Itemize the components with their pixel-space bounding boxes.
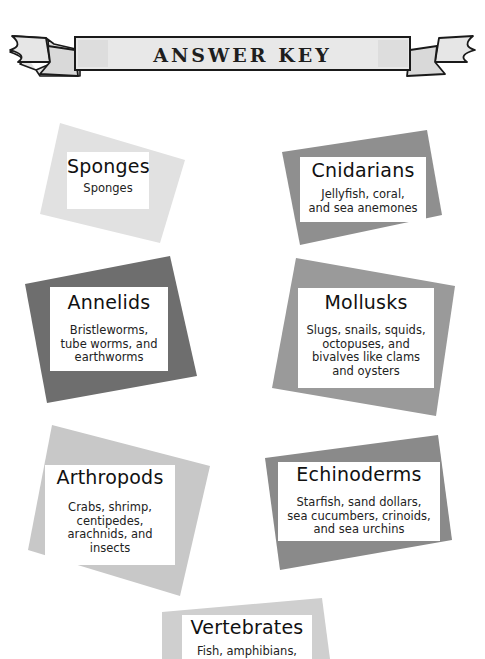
card-title: Arthropods [45, 465, 175, 489]
card-description: Sponges [67, 182, 149, 196]
card-description: Slugs, snails, squids, octopuses, and bi… [298, 324, 434, 378]
card-annelids: Annelids Bristleworms, tube worms, and e… [50, 287, 168, 371]
card-title: Mollusks [298, 290, 434, 314]
card-description: Bristleworms, tube worms, and earthworms [50, 324, 168, 365]
card-title: Sponges [67, 154, 149, 178]
card-description: Starfish, sand dollars, sea cucumbers, c… [278, 496, 440, 537]
card-description: Jellyfish, coral, and sea anemones [300, 188, 426, 215]
card-title: Vertebrates [182, 615, 312, 639]
card-description: Crabs, shrimp, centipedes, arachnids, an… [45, 501, 175, 555]
card-cnidarians: Cnidarians Jellyfish, coral, and sea ane… [300, 157, 426, 222]
card-description: Fish, amphibians, [182, 645, 312, 659]
card-title: Echinoderms [278, 462, 440, 486]
card-vertebrates: Vertebrates Fish, amphibians, [182, 615, 312, 659]
card-mollusks: Mollusks Slugs, snails, squids, octopuse… [298, 288, 434, 388]
card-sponges: Sponges Sponges [67, 152, 149, 209]
card-echinoderms: Echinoderms Starfish, sand dollars, sea … [278, 462, 440, 541]
card-title: Annelids [50, 290, 168, 314]
card-arthropods: Arthropods Crabs, shrimp, centipedes, ar… [45, 465, 175, 565]
card-title: Cnidarians [300, 158, 426, 182]
